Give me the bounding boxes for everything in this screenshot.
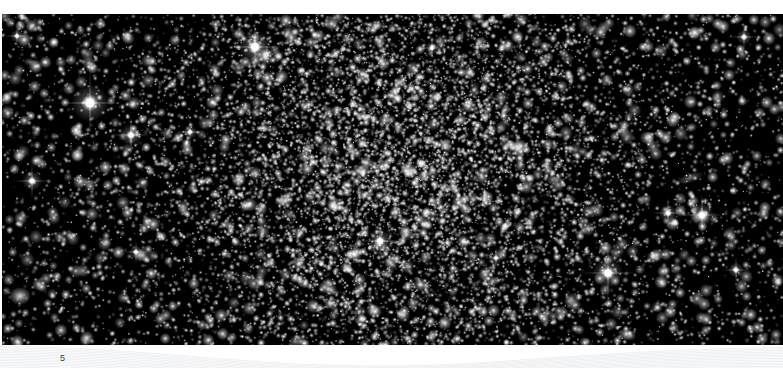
starfield-canvas [2, 14, 783, 345]
document-page: 5 [0, 0, 783, 368]
page-number: 5 [60, 353, 65, 364]
deep-field-star-cluster-photograph [2, 14, 783, 345]
swoosh-decoration [0, 345, 783, 368]
swoosh-curves-svg [0, 345, 783, 368]
